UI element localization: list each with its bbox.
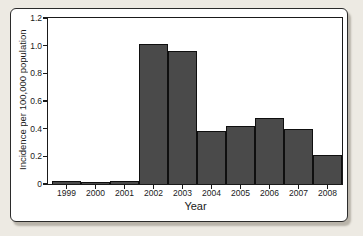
y-tick-mark (43, 156, 47, 157)
x-tick-label: 2004 (202, 189, 221, 198)
x-tick-label: 2007 (289, 189, 308, 198)
y-tick-label: 0.6 (16, 97, 42, 106)
bar-2007 (284, 129, 313, 184)
x-tick-label: 2002 (144, 189, 163, 198)
y-tick-mark (43, 100, 47, 101)
y-tick-label: 0.8 (16, 69, 42, 78)
plot-area: 00.20.40.60.81.01.2199920002001200220032… (47, 17, 343, 185)
bar-2005 (226, 126, 255, 184)
y-tick-label: 1.2 (16, 14, 42, 23)
bar-2002 (139, 44, 168, 184)
x-tick-label: 2006 (260, 189, 279, 198)
bar-2003 (168, 51, 197, 184)
y-tick-label: 0.4 (16, 124, 42, 133)
x-tick-label: 2001 (115, 189, 134, 198)
y-tick-label: 0 (16, 180, 42, 189)
figure-frame: Incidence per 100,000 population 00.20.4… (10, 8, 348, 222)
x-tick-label: 2005 (231, 189, 250, 198)
figure-background: Incidence per 100,000 population 00.20.4… (0, 0, 363, 236)
y-tick-mark (43, 183, 47, 184)
y-tick-mark (43, 17, 47, 18)
x-tick-label: 2000 (86, 189, 105, 198)
y-tick-mark (43, 45, 47, 46)
y-tick-label: 0.2 (16, 152, 42, 161)
bar-2008 (313, 155, 342, 184)
bar-2004 (197, 131, 226, 184)
y-tick-mark (43, 73, 47, 74)
x-axis-title: Year (47, 200, 344, 212)
x-tick-label: 2008 (318, 189, 337, 198)
x-tick-label: 1999 (57, 189, 76, 198)
y-tick-mark (43, 128, 47, 129)
bar-2006 (255, 118, 284, 184)
x-tick-label: 2003 (173, 189, 192, 198)
y-tick-label: 1.0 (16, 41, 42, 50)
